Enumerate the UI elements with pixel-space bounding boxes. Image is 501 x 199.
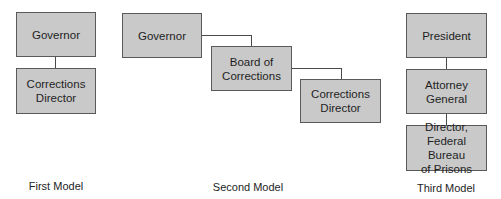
node-label: Governor bbox=[32, 28, 80, 42]
connector-line bbox=[55, 57, 56, 68]
third-model-attorney-general-box: Attorney General bbox=[406, 69, 487, 114]
connector-line bbox=[446, 58, 447, 69]
first-model-governor-box: Governor bbox=[16, 12, 96, 57]
third-model-caption: Third Model bbox=[386, 182, 501, 194]
org-chart-diagram: Governor Corrections Director First Mode… bbox=[0, 0, 501, 199]
second-model-corrections-director-box: Corrections Director bbox=[300, 79, 381, 123]
node-label-line: of Prisons bbox=[407, 162, 486, 176]
node-label-line: Attorney bbox=[425, 78, 468, 92]
node-label-line: Corrections bbox=[222, 69, 281, 83]
node-label-line: Director bbox=[311, 101, 370, 115]
node-label-line: Director, bbox=[407, 120, 486, 134]
second-model-caption: Second Model bbox=[188, 181, 308, 193]
node-label-line: Director bbox=[27, 91, 86, 105]
second-model-board-of-corrections-box: Board of Corrections bbox=[211, 46, 292, 91]
connector-line bbox=[202, 35, 252, 36]
node-label-line: Board of bbox=[222, 55, 281, 69]
connector-line bbox=[341, 68, 342, 79]
first-model-caption: First Model bbox=[0, 180, 116, 192]
node-label-line: General bbox=[425, 92, 468, 106]
third-model-director-bop-box: Director, Federal Bureau of Prisons bbox=[406, 125, 487, 171]
node-label-line: Federal Bureau bbox=[407, 134, 486, 162]
connector-line bbox=[251, 35, 252, 46]
node-label-line: Corrections bbox=[311, 87, 370, 101]
node-label: Governor bbox=[138, 29, 186, 43]
connector-line bbox=[292, 68, 342, 69]
first-model-corrections-director-box: Corrections Director bbox=[16, 68, 96, 114]
node-label-line: Corrections bbox=[27, 77, 86, 91]
third-model-president-box: President bbox=[406, 13, 487, 58]
second-model-governor-box: Governor bbox=[122, 13, 202, 58]
node-label: President bbox=[422, 29, 471, 43]
